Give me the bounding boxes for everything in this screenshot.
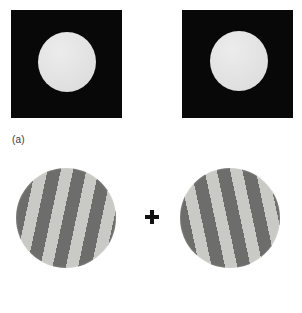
right-eye-grating-bars xyxy=(180,168,280,268)
left-eye-stimulus-square xyxy=(11,10,122,118)
left-eye-disk xyxy=(38,32,96,92)
fixation-plus-icon xyxy=(145,210,159,224)
right-eye-grating-disk xyxy=(180,168,280,268)
right-eye-stimulus-square xyxy=(182,10,293,118)
left-eye-grating-bars xyxy=(16,168,116,268)
plus-vertical-bar xyxy=(150,210,154,224)
panel-a-caption: (a) xyxy=(12,134,25,145)
figure-root: (a) (b) xyxy=(0,0,302,313)
left-eye-grating-disk xyxy=(16,168,116,268)
panel-a: (a) xyxy=(0,0,302,152)
panel-b: (b) xyxy=(0,152,302,313)
right-eye-disk xyxy=(210,31,268,91)
